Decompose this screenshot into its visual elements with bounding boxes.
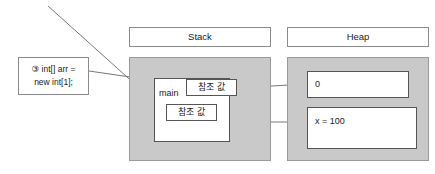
heap-object-instance: x = 100 xyxy=(307,107,417,149)
code-annotation-line-2: new int[1]; xyxy=(34,76,73,89)
stack-frame-main-label: main xyxy=(159,88,179,98)
stack-header: Stack xyxy=(129,27,271,47)
heap-object-2-label: x = 100 xyxy=(315,115,345,127)
code-annotation-box: ③ int[] arr = new int[1]; xyxy=(18,57,89,95)
stack-slot-1-label: 참조 값 xyxy=(198,81,225,93)
stack-header-label: Stack xyxy=(188,31,212,44)
stack-slot-reference-1: 참조 값 xyxy=(186,79,237,96)
memory-diagram: Stack Heap main 참조 값 참조 값 0 x = 100 ③ in… xyxy=(0,0,435,174)
code-annotation-line-1: ③ int[] arr = xyxy=(32,63,76,76)
stack-slot-reference-2: 참조 값 xyxy=(166,104,217,121)
heap-header-label: Heap xyxy=(347,31,370,44)
heap-header: Heap xyxy=(287,27,429,47)
stack-slot-2-label: 참조 값 xyxy=(178,106,205,118)
heap-object-array: 0 xyxy=(307,71,409,98)
heap-object-1-label: 0 xyxy=(315,78,320,90)
